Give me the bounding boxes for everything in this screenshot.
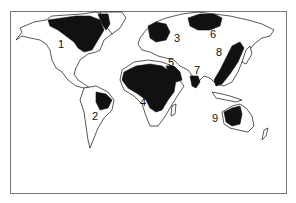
region-7: [190, 76, 200, 88]
label-9: 9: [212, 112, 218, 124]
label-4: 4: [140, 96, 146, 108]
label-3: 3: [174, 32, 180, 44]
label-5: 5: [168, 56, 174, 68]
landmass-indonesia: [212, 92, 242, 102]
label-8: 8: [216, 46, 222, 58]
label-6: 6: [210, 28, 216, 40]
region-3: [148, 22, 170, 42]
landmass-madagascar: [171, 104, 176, 116]
label-7: 7: [194, 64, 200, 76]
world-map: 1 2 3 4 5 6 7 8 9: [0, 0, 296, 203]
label-1: 1: [58, 38, 64, 50]
landmass-new-zealand: [262, 128, 268, 140]
label-2: 2: [92, 110, 98, 122]
